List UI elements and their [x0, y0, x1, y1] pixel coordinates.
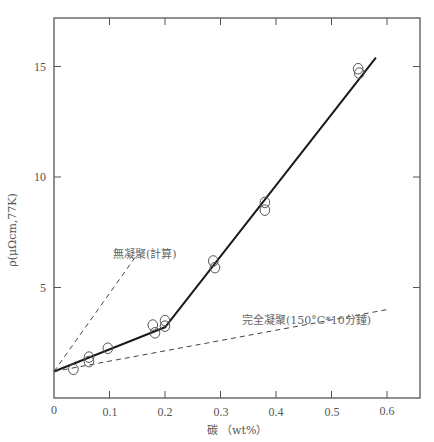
y-tick-labels: 5 10 15 [34, 60, 46, 295]
data-point-marker [69, 364, 79, 375]
x-tick-label: 0.5 [325, 405, 340, 419]
resistivity-chart: 0 0.1 0.2 0.3 0.4 0.5 0.6 5 10 15 碳 （wt%… [0, 0, 434, 442]
y-tick-label: 15 [34, 60, 46, 74]
y-tick-label: 10 [34, 170, 46, 184]
axis-ticks [54, 18, 420, 398]
annotation-full-precipitation: 完全凝聚(150°C*10分鐘) [242, 313, 371, 327]
data-markers [69, 63, 364, 374]
plot-frame [54, 18, 420, 398]
x-tick-label: 0.6 [380, 404, 395, 418]
data-point-marker [148, 320, 158, 331]
y-tick-label: 5 [40, 281, 46, 295]
x-tick-label: 0.3 [214, 405, 229, 419]
data-point-marker [260, 205, 270, 216]
x-tick-label: 0.2 [158, 405, 173, 419]
x-axis-title: 碳 （wt%） [207, 423, 268, 437]
y-axis-title: ρ(μΩcm,77K) [6, 193, 19, 267]
annotation-no-precipitation: 無凝聚(計算) [113, 247, 177, 261]
x-tick-label: 0 [51, 403, 57, 417]
x-tick-labels: 0 0.1 0.2 0.3 0.4 0.5 0.6 [51, 403, 395, 419]
x-tick-label: 0.1 [103, 405, 118, 419]
x-tick-label: 0.4 [269, 405, 284, 419]
